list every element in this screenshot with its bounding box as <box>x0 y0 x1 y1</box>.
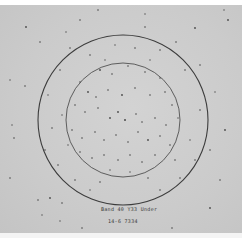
speckle-dots <box>9 9 229 229</box>
inner-circle <box>66 63 180 177</box>
outer-circle <box>38 35 208 205</box>
photo-border <box>0 233 242 238</box>
annotation-line-1: Band 40 Y33 Under <box>101 206 157 212</box>
annotation-line-2: 14-6 7334 <box>108 218 138 224</box>
plate-photograph: Band 40 Y33 Under 14-6 7334 <box>0 5 242 233</box>
plate-drawing <box>0 0 242 238</box>
